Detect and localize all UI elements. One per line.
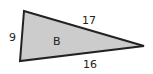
side-top-label: 17 (82, 14, 96, 27)
side-left-label: 9 (9, 31, 16, 44)
triangle-diagram: 9 17 16 B (0, 0, 153, 74)
side-bottom-label: 16 (83, 58, 97, 71)
shape-label: B (53, 35, 61, 48)
